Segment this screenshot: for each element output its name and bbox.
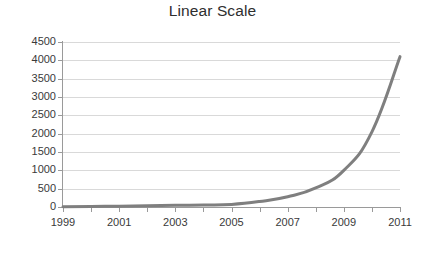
x-axis-tick — [260, 208, 261, 212]
y-axis-tick — [58, 207, 62, 208]
x-axis-tick — [288, 208, 289, 212]
y-axis-tick-label: 4000 — [8, 54, 56, 65]
y-axis-tick — [58, 42, 62, 43]
y-axis-tick — [58, 170, 62, 171]
series-line — [63, 57, 400, 207]
x-axis-tick — [400, 208, 401, 212]
y-axis-tick — [58, 60, 62, 61]
y-axis-tick-label: 3000 — [8, 91, 56, 102]
y-axis-tick-label: 0 — [8, 201, 56, 212]
x-axis-tick — [316, 208, 317, 212]
y-axis-tick-label: 4500 — [8, 36, 56, 47]
y-axis-tick — [58, 115, 62, 116]
x-axis-tick — [119, 208, 120, 212]
y-axis-tick-label: 500 — [8, 183, 56, 194]
chart-title: Linear Scale — [0, 2, 425, 20]
y-axis-tick-label: 1500 — [8, 146, 56, 157]
x-axis-tick — [344, 208, 345, 212]
x-axis-tick-label: 1999 — [40, 216, 86, 228]
x-axis-tick — [232, 208, 233, 212]
y-axis-tick-label: 1000 — [8, 164, 56, 175]
x-axis-tick — [372, 208, 373, 212]
x-axis-tick — [63, 208, 64, 212]
x-axis-tick-label: 2011 — [377, 216, 423, 228]
x-axis-tick — [91, 208, 92, 212]
y-axis-tick — [58, 97, 62, 98]
y-axis-tick — [58, 152, 62, 153]
chart-container: Linear Scale 050010001500200025003000350… — [0, 0, 425, 253]
x-axis-tick-label: 2009 — [321, 216, 367, 228]
y-axis-tick — [58, 79, 62, 80]
plot-area — [63, 42, 400, 207]
y-axis-tick-label: 3500 — [8, 73, 56, 84]
y-axis-tick — [58, 189, 62, 190]
x-axis-tick-label: 2001 — [96, 216, 142, 228]
y-axis-tick — [58, 134, 62, 135]
x-axis-tick-label: 2005 — [209, 216, 255, 228]
x-axis-tick — [147, 208, 148, 212]
x-axis-tick — [175, 208, 176, 212]
x-axis-tick-label: 2003 — [152, 216, 198, 228]
series-line-value — [63, 42, 400, 207]
x-axis-tick — [203, 208, 204, 212]
y-axis-tick-label: 2500 — [8, 109, 56, 120]
y-axis-tick-label: 2000 — [8, 128, 56, 139]
x-axis-tick-label: 2007 — [265, 216, 311, 228]
